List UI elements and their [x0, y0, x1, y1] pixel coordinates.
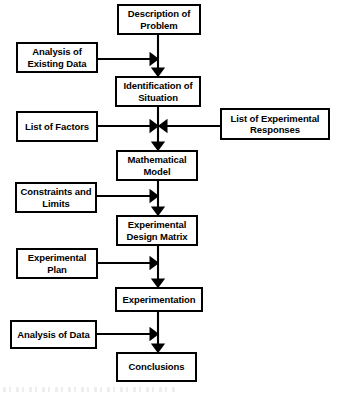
- node-label: List of Factors: [20, 121, 94, 133]
- flowchart-diagram: Description of Problem Identification of…: [0, 0, 337, 393]
- node-label: Experimental Design Matrix: [120, 219, 194, 242]
- node-constraints-and-limits[interactable]: Constraints and Limits: [15, 182, 97, 213]
- node-analysis-of-data[interactable]: Analysis of Data: [10, 320, 97, 349]
- node-list-of-factors[interactable]: List of Factors: [16, 111, 98, 142]
- node-label: Mathematical Model: [120, 154, 194, 177]
- node-experimental-design-matrix[interactable]: Experimental Design Matrix: [116, 215, 198, 246]
- node-experimentation[interactable]: Experimentation: [115, 287, 203, 312]
- node-description-of-problem[interactable]: Description of Problem: [117, 4, 201, 35]
- node-identification-of-situation[interactable]: Identification of Situation: [115, 76, 201, 107]
- node-analysis-of-existing-data[interactable]: Analysis of Existing Data: [16, 42, 98, 73]
- node-label: List of Experimental Responses: [224, 113, 326, 136]
- node-label: Description of Problem: [121, 8, 197, 31]
- node-label: Identification of Situation: [119, 80, 197, 103]
- node-label: Conclusions: [120, 361, 193, 373]
- node-label: Experimentation: [119, 294, 199, 306]
- cropped-caption-artifact: [3, 387, 178, 392]
- node-experimental-plan[interactable]: Experimental Plan: [16, 248, 98, 279]
- node-label: Constraints and Limits: [19, 186, 93, 209]
- node-label: Experimental Plan: [20, 252, 94, 275]
- node-mathematical-model[interactable]: Mathematical Model: [116, 150, 198, 181]
- node-label: Analysis of Data: [14, 329, 93, 341]
- node-list-of-experimental-responses[interactable]: List of Experimental Responses: [220, 108, 330, 140]
- node-conclusions[interactable]: Conclusions: [116, 352, 197, 382]
- node-label: Analysis of Existing Data: [20, 46, 94, 69]
